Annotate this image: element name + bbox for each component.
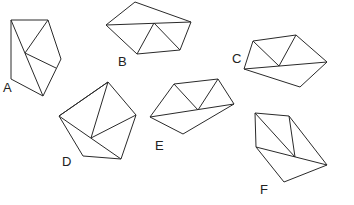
shape-outline bbox=[150, 79, 234, 134]
shape-diagonal bbox=[59, 116, 121, 159]
shape-outline bbox=[106, 2, 191, 54]
shape-label: E bbox=[155, 138, 164, 153]
shape-label: B bbox=[118, 54, 127, 69]
shape-diagonal bbox=[154, 23, 180, 50]
shape-diagonal bbox=[255, 113, 295, 157]
shape-diagonal bbox=[11, 20, 43, 96]
shape-d: D bbox=[59, 82, 136, 169]
shape-label: C bbox=[232, 51, 241, 66]
shape-outline bbox=[244, 35, 327, 87]
shape-diagonal bbox=[198, 79, 218, 110]
shape-label: F bbox=[260, 182, 268, 197]
shape-label: A bbox=[3, 80, 12, 95]
shape-diagonal bbox=[25, 20, 48, 53]
shape-f: F bbox=[255, 113, 327, 197]
shape-diagonal bbox=[137, 23, 154, 54]
shape-diagonal bbox=[256, 147, 327, 165]
shape-diagonal bbox=[25, 53, 56, 68]
shape-label: D bbox=[62, 154, 71, 169]
shape-diagonal bbox=[59, 82, 108, 116]
shape-diagonal bbox=[106, 22, 191, 25]
shape-diagonal bbox=[174, 84, 198, 110]
shape-b: B bbox=[106, 2, 191, 69]
shape-c: C bbox=[232, 35, 327, 87]
shape-diagonal bbox=[279, 35, 296, 66]
diagram-canvas: ABCDEF bbox=[0, 0, 354, 205]
shape-outline bbox=[255, 113, 327, 182]
shape-diagonal bbox=[253, 41, 279, 66]
shape-a: A bbox=[3, 20, 61, 96]
shape-diagonal bbox=[150, 104, 234, 117]
shape-diagonal bbox=[244, 62, 327, 69]
shape-diagonal bbox=[91, 82, 108, 138]
shape-e: E bbox=[150, 79, 234, 153]
